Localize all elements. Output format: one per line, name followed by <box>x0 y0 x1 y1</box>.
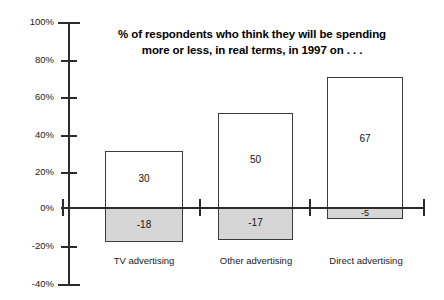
bar-value-positive-other-advertising: 50 <box>218 154 293 165</box>
bar-value-positive-tv-advertising: 30 <box>105 173 183 184</box>
y-tick-mark-neg40 <box>58 284 80 286</box>
y-tick-label-40: 40% <box>6 130 54 140</box>
x-tick-mark-2 <box>309 199 311 216</box>
y-tick-label-20: 20% <box>6 167 54 177</box>
y-tick-mark-60 <box>61 97 77 99</box>
x-category-label-tv-advertising: TV advertising <box>94 255 194 266</box>
bar-value-negative-other-advertising: -17 <box>218 217 293 228</box>
x-category-label-direct-advertising: Direct advertising <box>316 255 416 266</box>
plot-area: 100% 80% 60% 40% 20% 0% -20% -40% <box>0 0 444 300</box>
y-tick-mark-40 <box>61 135 77 137</box>
x-axis-zero-line <box>62 207 425 209</box>
x-tick-mark-1 <box>199 199 201 216</box>
y-tick-mark-100 <box>58 22 80 24</box>
y-tick-label-neg20: -20% <box>6 241 54 251</box>
y-tick-mark-neg20 <box>61 246 77 248</box>
x-category-label-other-advertising: Other advertising <box>206 255 306 266</box>
y-tick-label-80: 80% <box>6 55 54 65</box>
y-tick-label-60: 60% <box>6 92 54 102</box>
y-tick-label-100: 100% <box>6 17 54 27</box>
y-tick-mark-20 <box>61 172 77 174</box>
x-tick-mark-end <box>423 199 425 216</box>
x-tick-mark-start <box>62 199 64 216</box>
y-tick-mark-80 <box>61 60 77 62</box>
y-tick-label-neg40: -40% <box>6 279 54 289</box>
y-tick-label-0: 0% <box>6 203 54 213</box>
bar-value-negative-tv-advertising: -18 <box>105 219 183 230</box>
bar-value-positive-direct-advertising: 67 <box>327 133 403 144</box>
chart-container: % of respondents who think they will be … <box>0 0 444 300</box>
bar-value-negative-direct-advertising: -5 <box>327 208 403 219</box>
